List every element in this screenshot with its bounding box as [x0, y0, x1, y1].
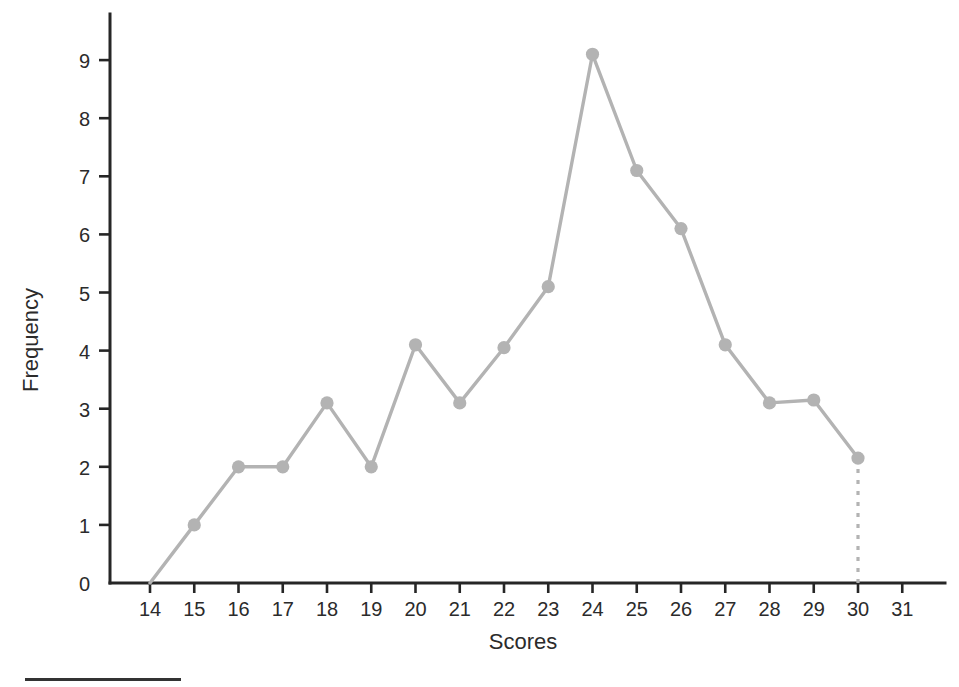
frequency-polygon-line [150, 54, 858, 583]
data-point-marker [807, 393, 820, 406]
x-tick-label: 25 [626, 598, 648, 620]
data-point-marker [188, 518, 201, 531]
data-point-marker [851, 451, 864, 464]
y-tick-label: 2 [79, 457, 90, 479]
x-tick-label: 26 [670, 598, 692, 620]
chart-canvas: 141516171819202122232425262728293031 012… [0, 0, 959, 687]
y-tick-label: 0 [79, 573, 90, 595]
x-tick-label: 27 [714, 598, 736, 620]
data-point-marker [586, 48, 599, 61]
footer-divider-rule [25, 678, 181, 681]
x-tick-label: 16 [227, 598, 249, 620]
x-tick-label: 23 [537, 598, 559, 620]
x-tick-label: 30 [847, 598, 869, 620]
data-point-marker [542, 280, 555, 293]
x-tick-label: 19 [360, 598, 382, 620]
y-axis-ticks [99, 60, 110, 525]
x-tick-label: 20 [404, 598, 426, 620]
x-tick-label: 21 [449, 598, 471, 620]
y-tick-label: 6 [79, 224, 90, 246]
x-axis-title: Scores [489, 629, 557, 654]
y-tick-label: 5 [79, 283, 90, 305]
x-tick-label: 31 [891, 598, 913, 620]
x-tick-label: 17 [272, 598, 294, 620]
axis-spines [110, 14, 945, 583]
x-tick-label: 29 [803, 598, 825, 620]
data-point-marker [630, 164, 643, 177]
y-tick-label: 8 [79, 108, 90, 130]
data-point-marker [453, 396, 466, 409]
data-point-marker [674, 222, 687, 235]
data-point-marker [365, 460, 378, 473]
y-tick-label: 3 [79, 399, 90, 421]
data-point-marker [276, 460, 289, 473]
x-tick-label: 22 [493, 598, 515, 620]
data-point-marker [409, 338, 422, 351]
data-point-marker [320, 396, 333, 409]
x-tick-label: 24 [581, 598, 603, 620]
data-point-marker [232, 460, 245, 473]
frequency-polygon-figure: 141516171819202122232425262728293031 012… [0, 0, 959, 687]
y-tick-label: 9 [79, 50, 90, 72]
y-tick-label: 4 [79, 341, 90, 363]
data-point-marker [719, 338, 732, 351]
y-axis-title: Frequency [18, 288, 43, 392]
y-tick-label: 7 [79, 166, 90, 188]
y-tick-label: 1 [79, 515, 90, 537]
data-point-marker [497, 341, 510, 354]
data-point-marker [763, 396, 776, 409]
x-axis-tick-labels: 141516171819202122232425262728293031 [139, 598, 914, 620]
x-tick-label: 15 [183, 598, 205, 620]
x-tick-label: 14 [139, 598, 161, 620]
x-tick-label: 28 [758, 598, 780, 620]
x-tick-label: 18 [316, 598, 338, 620]
y-axis-tick-labels: 0123456789 [79, 50, 90, 595]
